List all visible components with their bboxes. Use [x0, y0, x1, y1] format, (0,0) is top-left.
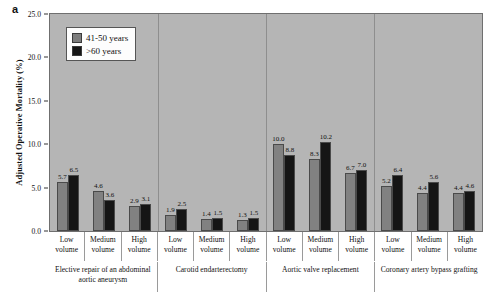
bar-series-over-60	[428, 182, 439, 231]
x-axis: LowvolumeMediumvolumeHighvolumeLowvolume…	[49, 232, 483, 294]
x-axis-category-cell: Lowvolume	[267, 232, 303, 261]
bar-series-41-50	[237, 220, 248, 231]
x-axis-category-line2: volume	[164, 245, 187, 255]
x-axis-category-line2: volume	[454, 245, 477, 255]
bar-series-over-60	[68, 175, 79, 231]
bar-value-label: 10.2	[320, 134, 332, 141]
bar-value-label: 5.6	[429, 174, 438, 181]
bar-series-over-60	[392, 175, 403, 231]
x-axis-category-line2: volume	[55, 245, 78, 255]
x-axis-category-line2: volume	[345, 245, 368, 255]
bar-series-41-50	[165, 215, 176, 231]
bar-value-label: 1.5	[249, 210, 258, 217]
bar-series-over-60	[248, 218, 259, 231]
bar-series-over-60	[464, 191, 475, 231]
x-axis-group-label: Elective repair of an abdominal aortic a…	[49, 262, 158, 292]
bar-value-label: 1.5	[213, 210, 222, 217]
bar-value-label: 8.8	[285, 147, 294, 154]
x-axis-category-cell: Highvolume	[448, 232, 483, 261]
x-axis-category-line2: volume	[418, 245, 441, 255]
bar-value-label: 5.7	[58, 174, 67, 181]
x-axis-category-line2: volume	[381, 245, 404, 255]
y-axis-ticks: 0.05.010.015.020.025.0	[0, 0, 49, 303]
bar-series-over-60	[140, 204, 151, 231]
bar-series-over-60	[176, 209, 187, 231]
bar-value-label: 7.0	[357, 162, 366, 169]
bar-series-41-50	[93, 191, 104, 231]
x-axis-category-line1: Medium	[308, 235, 334, 245]
y-axis-tick-mark	[44, 100, 48, 101]
x-axis-category-cell: Highvolume	[230, 232, 266, 261]
bar-series-over-60	[320, 142, 331, 231]
x-axis-group-label: Aortic valve replacement	[267, 262, 376, 292]
y-axis-tick-label: 5.0	[32, 183, 42, 192]
y-axis-tick-label: 0.0	[32, 227, 42, 236]
x-axis-category-cell: Lowvolume	[49, 232, 85, 261]
y-axis-tick-label: 25.0	[28, 10, 41, 19]
y-axis-tick-label: 20.0	[28, 53, 41, 62]
bar-series-41-50	[201, 219, 212, 231]
x-axis-category-line2: volume	[309, 245, 332, 255]
bar-value-label: 1.9	[166, 207, 175, 214]
bar-value-label: 4.6	[94, 183, 103, 190]
x-axis-category-line1: High	[458, 235, 473, 245]
x-axis-category-line1: Medium	[416, 235, 442, 245]
bar-value-label: 2.9	[130, 198, 139, 205]
x-axis-category-line1: Medium	[199, 235, 225, 245]
x-axis-category-cell: Lowvolume	[158, 232, 194, 261]
x-axis-category-line1: Low	[386, 235, 400, 245]
bar-series-41-50	[273, 144, 284, 231]
x-axis-category-line1: High	[349, 235, 364, 245]
x-axis-category-line2: volume	[236, 245, 259, 255]
bar-value-label: 6.4	[393, 167, 402, 174]
bar-series-41-50	[453, 193, 464, 231]
bar-value-label: 1.3	[238, 212, 247, 219]
bar-value-label: 4.6	[465, 183, 474, 190]
bar-series-over-60	[356, 170, 367, 231]
y-axis-tick-mark	[44, 231, 48, 232]
x-axis-group-label: Coronary artery bypass grafting	[375, 262, 483, 292]
x-axis-group-row: Elective repair of an abdominal aortic a…	[49, 262, 483, 292]
x-axis-category-line2: volume	[273, 245, 296, 255]
figure-panel-a: a Adjusted Operative Mortality (%) 0.05.…	[0, 0, 487, 303]
x-axis-category-cell: Highvolume	[122, 232, 158, 261]
bar-value-label: 8.3	[310, 151, 319, 158]
bar-value-label: 4.4	[454, 185, 463, 192]
x-axis-category-line1: High	[240, 235, 255, 245]
bar-value-label: 3.6	[105, 192, 114, 199]
bar-series-41-50	[381, 186, 392, 231]
x-axis-category-row: LowvolumeMediumvolumeHighvolumeLowvolume…	[49, 232, 483, 261]
x-axis-category-line2: volume	[91, 245, 114, 255]
x-axis-category-line1: High	[132, 235, 147, 245]
bar-series-over-60	[104, 200, 115, 231]
bar-value-label: 2.5	[177, 201, 186, 208]
x-axis-category-cell: Mediumvolume	[85, 232, 121, 261]
x-axis-category-cell: Mediumvolume	[303, 232, 339, 261]
x-axis-category-line2: volume	[200, 245, 223, 255]
bar-series-layer: 5.76.54.63.62.93.11.92.51.41.51.31.510.0…	[50, 14, 482, 231]
bar-value-label: 1.4	[202, 211, 211, 218]
x-axis-group-label: Carotid endarterectomy	[158, 262, 267, 292]
x-axis-category-line1: Low	[168, 235, 182, 245]
bar-value-label: 10.0	[272, 136, 284, 143]
y-axis-tick-mark	[44, 144, 48, 145]
bar-value-label: 6.5	[69, 167, 78, 174]
y-axis-tick-mark	[44, 187, 48, 188]
x-axis-category-cell: Highvolume	[339, 232, 375, 261]
x-axis-category-cell: Mediumvolume	[412, 232, 448, 261]
x-axis-category-cell: Lowvolume	[375, 232, 411, 261]
bar-series-over-60	[284, 155, 295, 231]
bar-series-41-50	[129, 206, 140, 231]
y-axis-tick-label: 10.0	[28, 140, 41, 149]
bar-series-41-50	[309, 159, 320, 231]
bar-series-41-50	[345, 173, 356, 231]
bar-value-label: 6.7	[346, 165, 355, 172]
y-axis-tick-mark	[44, 57, 48, 58]
y-axis-tick-mark	[44, 14, 48, 15]
bar-series-41-50	[417, 193, 428, 231]
bar-value-label: 3.1	[141, 196, 150, 203]
bar-series-over-60	[212, 218, 223, 231]
bar-value-label: 5.2	[382, 178, 391, 185]
y-axis-tick-label: 15.0	[28, 96, 41, 105]
bar-value-label: 4.4	[418, 185, 427, 192]
